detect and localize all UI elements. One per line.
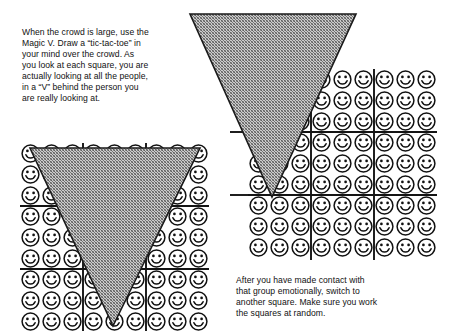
right-bleed-lines bbox=[230, 132, 248, 195]
diagram-canvas: When the crowd is large, use the Magic V… bbox=[0, 0, 452, 331]
intro-paragraph: When the crowd is large, use the Magic V… bbox=[22, 27, 212, 104]
outro-paragraph: After you have made contact with that gr… bbox=[236, 275, 436, 319]
right-magic-v-triangle bbox=[190, 14, 356, 197]
